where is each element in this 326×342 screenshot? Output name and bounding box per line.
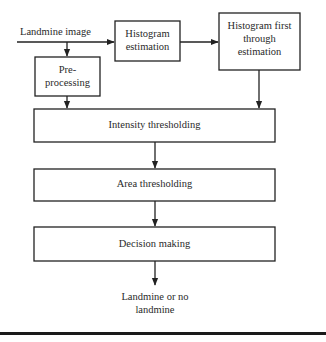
node-decision-making-label: Decision making <box>119 238 191 249</box>
node-histogram-first-through: Histogram first through estimation <box>219 13 300 70</box>
node-histogram-first-through-line-2: through <box>243 33 276 44</box>
node-area-thresholding-label: Area thresholding <box>117 178 193 189</box>
node-intensity-thresholding-label: Intensity thresholding <box>109 119 202 130</box>
node-decision-making: Decision making <box>34 227 275 261</box>
node-histogram-first-through-line-3: estimation <box>238 46 282 57</box>
output-label: Landmine or no landmine <box>121 291 188 315</box>
node-area-thresholding: Area thresholding <box>34 169 275 201</box>
node-histogram-estimation-line-2: estimation <box>126 41 170 52</box>
node-histogram-estimation-line-1: Histogram <box>125 28 169 39</box>
output-label-line-1: Landmine or no <box>121 291 188 302</box>
node-preprocessing: Pre- processing <box>35 57 100 96</box>
flowchart: Landmine image Histogram estimation Hist… <box>0 0 326 342</box>
node-intensity-thresholding: Intensity thresholding <box>34 109 275 142</box>
output-label-line-2: landmine <box>135 304 174 315</box>
node-histogram-first-through-line-1: Histogram first <box>228 20 292 31</box>
input-label: Landmine image <box>20 26 91 37</box>
node-histogram-estimation: Histogram estimation <box>115 21 180 61</box>
bottom-rule <box>0 332 326 335</box>
node-preprocessing-line-2: processing <box>45 77 91 88</box>
node-preprocessing-line-1: Pre- <box>59 64 77 75</box>
